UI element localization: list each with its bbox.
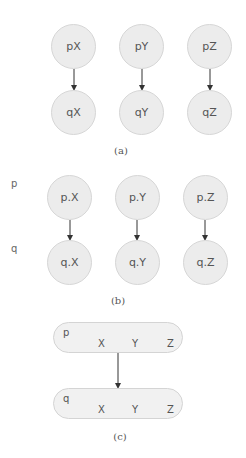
row-label-p: p [11, 178, 17, 189]
node-p.z: p.Z [183, 175, 228, 220]
node-pz: pZ [187, 24, 232, 69]
caption-a: (a) [114, 145, 128, 156]
node-qy: qY [119, 90, 164, 135]
caption-c: (c) [113, 431, 126, 442]
pill-p-name: p [63, 327, 69, 338]
pill-p-field-x: X [98, 338, 105, 349]
pill-p: p X Y Z [53, 322, 183, 353]
pill-p-field-y: Y [132, 338, 138, 349]
node-py: pY [119, 24, 164, 69]
node-q.y: q.Y [115, 240, 160, 285]
node-px: pX [51, 24, 96, 69]
node-qx: qX [51, 90, 96, 135]
pill-q-name: q [63, 393, 69, 404]
row-label-q: q [11, 243, 17, 254]
caption-b: (b) [111, 295, 125, 306]
pill-q-field-x: X [98, 404, 105, 415]
pill-q-field-z: Z [167, 404, 174, 415]
node-p.y: p.Y [115, 175, 160, 220]
pill-q: q X Y Z [53, 388, 183, 419]
pill-p-field-z: Z [167, 338, 174, 349]
node-q.z: q.Z [183, 240, 228, 285]
node-q.x: q.X [47, 240, 92, 285]
node-p.x: p.X [47, 175, 92, 220]
pill-q-field-y: Y [132, 404, 138, 415]
node-qz: qZ [187, 90, 232, 135]
